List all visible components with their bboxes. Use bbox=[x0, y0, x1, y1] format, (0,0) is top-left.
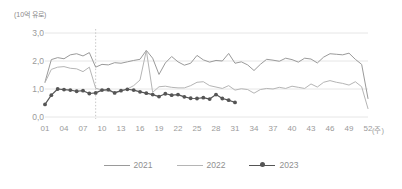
data-point-2023 bbox=[100, 88, 104, 92]
data-point-2023 bbox=[49, 93, 53, 97]
chart-legend: 202120222023 bbox=[0, 160, 402, 170]
x-tick-label: 34 bbox=[250, 124, 259, 133]
data-point-2023 bbox=[220, 97, 224, 101]
x-tick-label: 04 bbox=[60, 124, 69, 133]
legend-label: 2021 bbox=[134, 160, 153, 170]
x-tick-label: 49 bbox=[345, 124, 354, 133]
data-point-2023 bbox=[163, 92, 167, 96]
x-tick-label: 28 bbox=[212, 124, 221, 133]
x-tick-label: 46 bbox=[326, 124, 335, 133]
data-point-2023 bbox=[138, 90, 142, 94]
y-tick-label: 2,0 bbox=[18, 56, 44, 66]
legend-item-2021[interactable]: 2021 bbox=[104, 160, 153, 170]
legend-swatch-icon bbox=[249, 161, 275, 170]
data-point-2023 bbox=[201, 96, 205, 100]
data-point-2023 bbox=[81, 89, 85, 93]
data-point-2023 bbox=[208, 97, 212, 101]
data-point-2023 bbox=[68, 88, 72, 92]
data-point-2023 bbox=[62, 88, 66, 92]
x-tick-label: 43 bbox=[307, 124, 316, 133]
data-point-2023 bbox=[157, 95, 161, 99]
x-tick-label: 01 bbox=[41, 124, 50, 133]
data-point-2023 bbox=[132, 88, 136, 92]
data-point-2023 bbox=[56, 87, 60, 91]
y-tick-label: 0,0 bbox=[18, 112, 44, 122]
data-point-2023 bbox=[182, 95, 186, 99]
data-point-2023 bbox=[125, 87, 129, 91]
x-axis-unit-label: (주) bbox=[372, 124, 384, 135]
data-point-2023 bbox=[113, 91, 117, 95]
data-point-2023 bbox=[75, 89, 79, 93]
series-line-2021 bbox=[45, 50, 368, 98]
legend-item-2023[interactable]: 2023 bbox=[249, 160, 298, 170]
data-point-2023 bbox=[214, 93, 218, 97]
data-point-2023 bbox=[227, 98, 231, 102]
x-tick-label: 40 bbox=[288, 124, 297, 133]
legend-swatch-icon bbox=[104, 161, 130, 170]
data-point-2023 bbox=[151, 93, 155, 97]
x-tick-label: 19 bbox=[155, 124, 164, 133]
x-tick-label: 10 bbox=[98, 124, 107, 133]
legend-swatch-icon bbox=[177, 161, 203, 170]
data-point-2023 bbox=[195, 97, 199, 101]
series-line-2022 bbox=[45, 50, 368, 108]
x-tick-label: 07 bbox=[79, 124, 88, 133]
data-point-2023 bbox=[94, 91, 98, 95]
data-point-2023 bbox=[144, 91, 148, 95]
x-tick-label: 16 bbox=[136, 124, 145, 133]
weekly-line-chart: (10억 유로) 0,01,02,03,0 010407101316192225… bbox=[0, 0, 402, 189]
legend-label: 2023 bbox=[279, 160, 298, 170]
data-point-2023 bbox=[233, 101, 237, 105]
y-tick-label: 1,0 bbox=[18, 84, 44, 94]
x-tick-label: 13 bbox=[117, 124, 126, 133]
data-point-2023 bbox=[87, 92, 91, 96]
data-point-2023 bbox=[189, 96, 193, 100]
x-tick-label: 31 bbox=[231, 124, 240, 133]
x-tick-label: 22 bbox=[174, 124, 183, 133]
data-point-2023 bbox=[119, 89, 123, 93]
data-point-2023 bbox=[170, 93, 174, 97]
x-tick-label: 25 bbox=[193, 124, 202, 133]
data-point-2023 bbox=[176, 93, 180, 97]
legend-item-2022[interactable]: 2022 bbox=[177, 160, 226, 170]
data-point-2023 bbox=[106, 88, 110, 92]
legend-label: 2022 bbox=[207, 160, 226, 170]
y-tick-label: 3,0 bbox=[18, 28, 44, 38]
x-tick-label: 37 bbox=[269, 124, 278, 133]
